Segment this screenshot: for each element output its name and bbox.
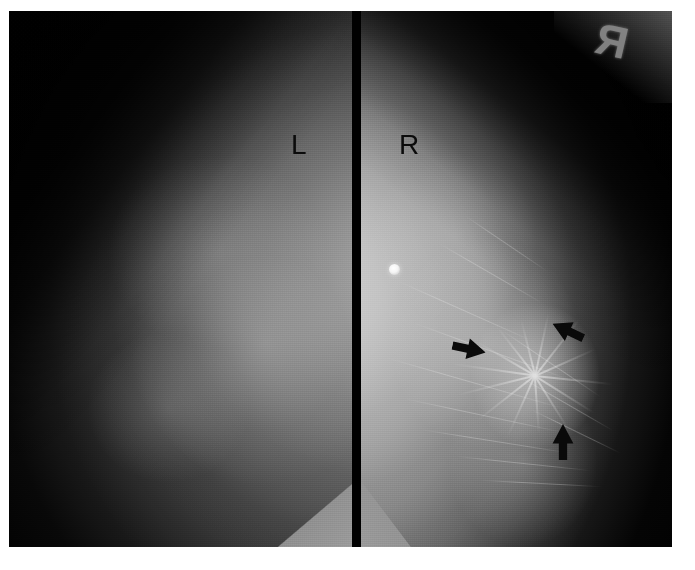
margin-bottom <box>0 547 695 570</box>
mammogram-image: L R R <box>0 0 695 570</box>
skin-marker-dot <box>389 264 400 275</box>
left-pectoral-shadow <box>9 11 356 547</box>
film-divider <box>352 9 361 549</box>
left-breast-panel <box>9 11 356 547</box>
left-side-label: L <box>291 131 307 159</box>
left-film-corner-triangle <box>264 469 356 547</box>
right-breast-panel <box>361 11 672 547</box>
margin-top <box>0 0 695 11</box>
right-side-label: R <box>399 131 419 159</box>
arrow-bottom-lesion <box>550 424 576 460</box>
right-film-corner-triangle <box>361 473 417 547</box>
margin-left <box>0 0 9 570</box>
margin-right <box>672 0 695 570</box>
